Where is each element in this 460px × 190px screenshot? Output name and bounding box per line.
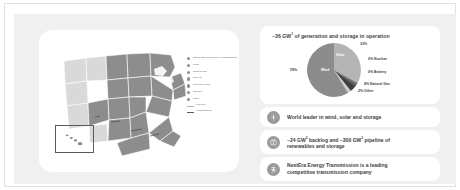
- highlight-card-text: ~24 GW2 backlog and ~300 GW3 pipeline of…: [287, 135, 398, 150]
- highlight-card-text: NextEra Energy Transmission is a leading…: [287, 162, 396, 175]
- generation-mix-pie-icon: [306, 42, 362, 98]
- highlight-line-2: competitive transmission company: [287, 169, 372, 175]
- slide-outer-frame: States with Generation or Transmission W…: [4, 3, 456, 187]
- legend-swatch-storage: [187, 91, 190, 94]
- legend-item: Natural Gas: [187, 70, 237, 74]
- hawaii-inset-box: [55, 125, 94, 153]
- hawaii-islands-icon: [56, 126, 93, 152]
- wind-turbine-icon: [267, 111, 280, 124]
- pie-label-other: 2% Other: [358, 89, 374, 93]
- pie-label-nuclear: 0% Nuclear: [368, 57, 387, 61]
- highlight-line-1: World leader in wind, solar and storage: [287, 114, 381, 120]
- highlight-card-world-leader: World leader in wind, solar and storage: [260, 107, 440, 127]
- pie-slice-label-wind: Wind: [321, 68, 329, 72]
- highlight-line-1: NextEra Energy Transmission is a leading: [287, 162, 388, 168]
- highlight-card-transmission: NextEra Energy Transmission is a leading…: [260, 157, 440, 181]
- highlight-card-text: World leader in wind, solar and storage: [287, 114, 389, 121]
- highlight-line-2: renewables and storage: [287, 143, 345, 149]
- legend-label: Transmission: [197, 109, 212, 112]
- legend-label: Other: [193, 97, 199, 100]
- map-legend: States with Generation or Transmission W…: [187, 56, 237, 115]
- pie-title-value: ~36 GW: [272, 33, 291, 39]
- transmission-tower-glyph: [269, 165, 278, 174]
- pie-chart-title: ~36 GW1 of generation and storage in ope…: [272, 32, 432, 39]
- legend-item: Wind: [187, 63, 237, 67]
- pie-label-wind-pct: 59%: [290, 68, 297, 72]
- legend-item: States with Generation or Transmission: [187, 56, 237, 60]
- highlight-line-1-mid: backlog and ~300 GW: [307, 136, 361, 142]
- pie-chart-area: 33% 0% Nuclear 0% Battery 4% Natural Gas…: [260, 40, 440, 102]
- legend-swatch-natural-gas: [187, 71, 190, 74]
- legend-label: Natural Gas: [193, 70, 206, 73]
- legend-label: Nuclear: [193, 76, 202, 79]
- legend-item: Storage: [187, 90, 237, 94]
- transmission-tower-icon: [267, 163, 280, 176]
- legend-swatch-nuclear: [187, 77, 190, 80]
- pie-title-rest: of generation and storage in operation: [293, 33, 389, 39]
- highlight-card-backlog: ~24 GW2 backlog and ~300 GW3 pipeline of…: [260, 130, 440, 154]
- legend-label: Universal Solar: [193, 83, 210, 86]
- legend-label: Wind: [193, 63, 199, 66]
- legend-item: Universal Solar: [187, 83, 237, 87]
- legend-swatch-other: [187, 98, 190, 101]
- map-card: States with Generation or Transmission W…: [39, 30, 239, 172]
- generation-mix-card: ~36 GW1 of generation and storage in ope…: [260, 26, 440, 104]
- legend-item: Nuclear: [187, 76, 237, 80]
- legend-swatch-wind: [187, 64, 190, 67]
- pie-label-natural-gas: 4% Natural Gas: [364, 82, 390, 86]
- battery-storage-icon: [267, 136, 280, 149]
- legend-item: Transmission: [187, 109, 237, 112]
- legend-label: States with Generation or Transmission: [193, 56, 237, 59]
- legend-label: Pipeline: [197, 103, 206, 106]
- pie-label-battery: 0% Battery: [368, 70, 386, 74]
- slide-root: States with Generation or Transmission W…: [0, 0, 460, 190]
- legend-swatch-states: [187, 57, 190, 60]
- highlight-line-1-post: pipeline of: [363, 136, 390, 142]
- legend-item: Other: [187, 97, 237, 101]
- legend-swatch-pipeline: [187, 106, 194, 107]
- slide-inner-panel: States with Generation or Transmission W…: [14, 14, 456, 184]
- wind-turbine-glyph: [269, 113, 278, 122]
- battery-storage-glyph: [269, 138, 278, 147]
- legend-swatch-universal-solar: [187, 84, 190, 87]
- highlight-line-1-pre: ~24 GW: [287, 136, 306, 142]
- legend-swatch-transmission: [187, 112, 194, 113]
- legend-label: Storage: [193, 90, 202, 93]
- map-wrapper: States with Generation or Transmission W…: [39, 30, 239, 172]
- pie-slice-label-solar: Solar: [336, 53, 344, 57]
- legend-item: Pipeline: [187, 103, 237, 106]
- pie-label-solar-pct: 33%: [360, 42, 367, 46]
